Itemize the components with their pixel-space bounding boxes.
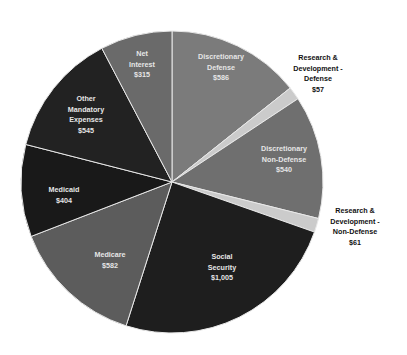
slice-label-line: Social <box>208 252 236 263</box>
slice-value: $582 <box>94 261 125 272</box>
slice-label-line: Net <box>129 49 155 60</box>
slice-label-other-mandatory-expenses: OtherMandatoryExpenses$545 <box>68 94 104 136</box>
slice-label-line: Interest <box>129 60 155 71</box>
slice-label-research-and-development-non-defense: Research &Development -Non-Defense$61 <box>330 206 380 248</box>
slice-value: $57 <box>293 85 343 96</box>
slice-label-medicaid: Medicaid$404 <box>49 185 80 206</box>
slice-value: $1,005 <box>208 273 236 284</box>
slice-label-line: Non-Defense <box>330 227 380 238</box>
slice-value: $404 <box>49 196 80 207</box>
slice-label-line: Discretionary <box>198 52 244 63</box>
slice-label-line: Research & <box>330 206 380 217</box>
slice-label-medicare: Medicare$582 <box>94 250 125 271</box>
slice-label-line: Medicare <box>94 250 125 261</box>
slice-label-social-security: SocialSecurity$1,005 <box>208 252 236 284</box>
slice-label-research-and-development-defense: Research &Development -Defense$57 <box>293 53 343 95</box>
slice-label-discretionary-non-defense: DiscretionaryNon-Defense$540 <box>261 144 307 176</box>
slice-label-line: Mandatory <box>68 105 104 116</box>
slice-label-net-interest: NetInterest$315 <box>129 49 155 81</box>
slice-value: $540 <box>261 165 307 176</box>
slice-label-discretionary-defense: DiscretionaryDefense$586 <box>198 52 244 84</box>
slice-value: $61 <box>330 238 380 249</box>
slice-label-line: Security <box>208 263 236 274</box>
slice-label-line: Development - <box>330 217 380 228</box>
slice-label-line: Expenses <box>68 115 104 126</box>
slice-label-line: Medicaid <box>49 185 80 196</box>
slice-value: $315 <box>129 70 155 81</box>
slice-label-line: Defense <box>198 63 244 74</box>
slice-label-line: Non-Defense <box>261 155 307 166</box>
slice-value: $545 <box>68 126 104 137</box>
slice-label-line: Development - <box>293 64 343 75</box>
slice-label-line: Other <box>68 94 104 105</box>
slice-value: $586 <box>198 73 244 84</box>
slice-label-line: Research & <box>293 53 343 64</box>
slice-label-line: Discretionary <box>261 144 307 155</box>
slice-label-line: Defense <box>293 74 343 85</box>
